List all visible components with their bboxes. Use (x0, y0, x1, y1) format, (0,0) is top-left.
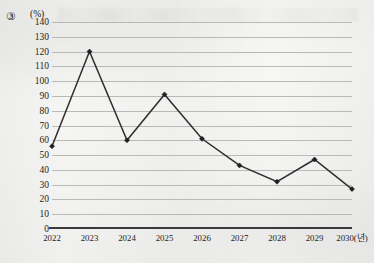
series-markers (50, 49, 355, 192)
data-point-marker (50, 144, 55, 149)
series-polyline (52, 52, 352, 190)
y-tick-label: 60 (3, 135, 49, 145)
x-tick-label: 2023 (81, 233, 99, 243)
x-tick-label: 2027 (231, 233, 249, 243)
x-tick-label: 2028 (268, 233, 286, 243)
y-tick-label: 40 (3, 165, 49, 175)
x-tick-label: 2026 (193, 233, 211, 243)
x-tick-label: 2030(년) (336, 233, 367, 243)
y-tick-label: 90 (3, 91, 49, 101)
y-tick-label: 70 (3, 121, 49, 131)
line-series (52, 22, 352, 229)
y-tick-label: 20 (3, 194, 49, 204)
x-tick-label: 2022 (43, 233, 61, 243)
data-point-marker (87, 49, 92, 54)
y-axis: 1401301201101009080706050403020100 (0, 22, 49, 229)
x-tick-label: 2024 (118, 233, 136, 243)
y-tick-label: 0 (3, 224, 49, 234)
y-tick-label: 100 (3, 76, 49, 86)
x-tick-label: 2025 (156, 233, 174, 243)
y-tick-label: 30 (3, 180, 49, 190)
y-tick-label: 140 (3, 17, 49, 27)
y-tick-label: 10 (3, 209, 49, 219)
chart-page: ③ (%) 1401301201101009080706050403020100… (0, 0, 374, 263)
y-tick-label: 50 (3, 150, 49, 160)
x-tick-label: 2029 (306, 233, 324, 243)
background-bleedthrough (58, 8, 358, 22)
y-tick-label: 130 (3, 32, 49, 42)
y-tick-label: 120 (3, 47, 49, 57)
y-tick-label: 80 (3, 106, 49, 116)
y-tick-label: 110 (3, 61, 49, 71)
